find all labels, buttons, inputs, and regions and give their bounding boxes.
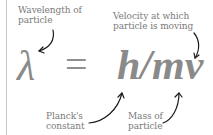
mass-arrow-icon — [163, 93, 179, 123]
planck-arrow-icon — [89, 93, 122, 123]
wavelength-arrow-icon — [39, 30, 53, 51]
annotation-arrows — [0, 0, 213, 135]
